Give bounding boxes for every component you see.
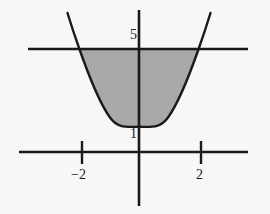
label-vertex-1: 1 [130,127,137,141]
label-y-intercept-5: 5 [130,28,137,42]
label-x-minus-2: −2 [71,168,86,182]
label-x-plus-2: 2 [196,168,203,182]
